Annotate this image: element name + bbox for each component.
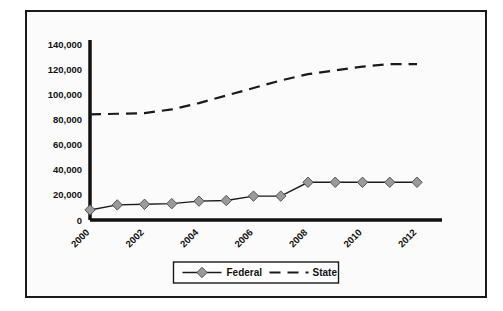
federal-data-marker [303,177,313,187]
y-tick-label: 120,000 [48,64,82,75]
x-tick-label: 2006 [232,227,255,250]
series-state-line [90,64,417,114]
federal-data-marker [167,198,177,208]
federal-data-marker [330,177,340,187]
y-tick-label: 100,000 [48,89,82,100]
x-tick-label: 2008 [287,227,310,250]
x-tick-label: 2002 [123,227,146,250]
y-tick-label: 80,000 [53,114,82,125]
y-tick-label: 140,000 [48,39,82,50]
federal-data-marker [194,196,204,206]
x-tick-label: 2012 [396,227,419,250]
federal-data-marker [412,177,422,187]
state-line-path [90,64,417,114]
legend-label-federal: Federal [227,267,263,278]
y-tick-label: 20,000 [53,189,82,200]
federal-data-marker [85,205,95,215]
federal-data-marker [221,195,231,205]
y-tick-label: 0 [77,215,82,226]
federal-data-marker [385,177,395,187]
line-chart: 020,00040,00060,00080,000100,000120,0001… [27,12,485,296]
x-tick-label: 2010 [341,227,364,250]
legend-label-state: State [313,267,338,278]
x-tick-label: 2004 [178,226,201,249]
series-federal-line [85,177,422,215]
y-tick-label: 60,000 [53,139,82,150]
x-axis-tick-labels: 2000200220042006200820102012 [69,226,419,249]
y-axis-tick-labels: 020,00040,00060,00080,000100,000120,0001… [48,39,82,226]
federal-data-marker [139,199,149,209]
federal-data-marker [112,200,122,210]
chart-legend: FederalState [174,262,339,283]
y-tick-label: 40,000 [53,164,82,175]
chart-figure: 020,00040,00060,00080,000100,000120,0001… [25,10,487,298]
axis-lines [90,40,442,220]
federal-data-marker [248,191,258,201]
x-tick-label: 2000 [69,227,92,250]
federal-data-marker [357,177,367,187]
federal-data-marker [276,191,286,201]
